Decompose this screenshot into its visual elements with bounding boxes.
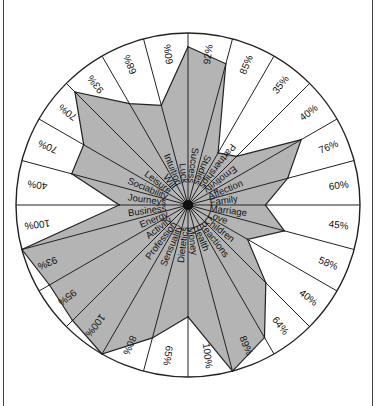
value-label: 60%	[328, 178, 349, 192]
data-point	[264, 337, 266, 339]
data-point	[118, 204, 120, 206]
value-label: 70%	[56, 102, 79, 123]
value-label: 100%	[201, 342, 215, 369]
data-point	[72, 320, 74, 322]
value-label: 76%	[317, 138, 340, 156]
data-point	[236, 156, 238, 158]
data-point	[300, 139, 302, 141]
data-point	[217, 152, 219, 154]
value-label: 65%	[161, 345, 175, 366]
data-point	[129, 103, 131, 105]
value-label: 40%	[297, 287, 320, 308]
data-point	[187, 46, 189, 48]
data-point	[265, 282, 267, 284]
data-point	[187, 316, 189, 318]
data-point	[247, 239, 249, 241]
data-point	[49, 284, 51, 286]
value-label: 64%	[270, 314, 291, 337]
data-point	[287, 178, 289, 180]
data-point	[152, 337, 154, 339]
data-point	[161, 105, 163, 107]
value-label: 58%	[317, 254, 340, 272]
data-point	[284, 230, 286, 232]
value-label: 40%	[297, 102, 320, 123]
value-label: 85%	[237, 53, 255, 76]
value-label: 68%	[121, 53, 139, 76]
radar-chart: SuccessStudiesPartnershipsEmotivityAffec…	[0, 0, 377, 406]
value-label: 45%	[328, 218, 349, 232]
data-point	[74, 91, 76, 93]
center-hub	[183, 200, 193, 210]
value-label: 70%	[36, 138, 59, 156]
data-point	[83, 144, 85, 146]
value-label: 40%	[27, 178, 48, 192]
data-point	[225, 63, 227, 65]
value-label: 60%	[161, 44, 175, 65]
data-point	[71, 173, 73, 175]
value-label: 100%	[24, 218, 51, 232]
value-label: 93%	[85, 73, 106, 96]
value-label: 35%	[270, 73, 291, 96]
data-point	[265, 204, 267, 206]
